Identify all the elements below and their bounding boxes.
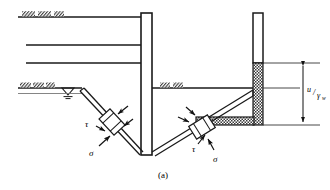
ground-surface-hatch-left — [46, 83, 55, 88]
excavation-level-hatch — [173, 83, 183, 88]
sigma-label-left: σ — [89, 148, 94, 158]
excavation-level-hatch — [160, 83, 170, 88]
excavation-level-right — [152, 83, 253, 89]
excavation-diagram: τ σ τ σ u / γ w — [0, 0, 330, 190]
pressure-head-denominator: γ — [317, 91, 321, 100]
pressure-head-numerator: u — [307, 85, 311, 94]
figure-caption: (a) — [158, 170, 168, 180]
right-sheet-pile-wall — [253, 13, 263, 63]
excavation-level-left — [18, 83, 82, 89]
pressure-head-label: u / γ w — [307, 85, 326, 101]
ground-surface-hatch-left — [22, 11, 35, 16]
ground-surface-hatch-left — [20, 83, 31, 88]
tau-label-left: τ — [85, 119, 89, 129]
sigma-label-right: σ — [213, 154, 218, 164]
stress-element-left — [99, 109, 125, 135]
water-table-triangle — [18, 88, 82, 99]
pressure-head-slash: / — [312, 88, 316, 97]
ground-surface-left — [18, 11, 152, 17]
ground-surface-hatch-left — [38, 11, 51, 16]
ground-surface-hatch-left — [54, 11, 64, 16]
ground-surface-hatch-left — [33, 83, 44, 88]
pressure-head-dimension — [263, 63, 320, 125]
center-vertical-wall — [141, 13, 152, 155]
figure-container: τ σ τ σ u / γ w — [0, 0, 330, 190]
pressure-head-subscript: w — [322, 95, 326, 101]
tau-label-right: τ — [192, 144, 196, 154]
